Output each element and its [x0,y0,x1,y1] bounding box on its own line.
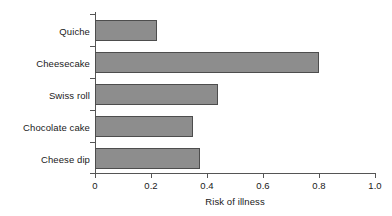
bar-chart-figure: Quiche Cheesecake Swiss roll Chocolate c… [0,0,392,216]
x-axis-tick [375,173,376,178]
y-axis-tick [90,14,95,15]
x-axis-tick-label: 0.2 [144,180,158,191]
bar-row: Cheesecake [0,52,392,74]
x-axis-tick [319,173,320,178]
y-axis-tick [90,46,95,47]
x-axis-tick-label: 0.4 [200,180,214,191]
bar-cheese-dip [95,148,200,169]
bar-quiche [95,20,157,41]
x-axis-tick-label: 0.8 [312,180,326,191]
x-axis-tick-label: 0.6 [256,180,270,191]
bar-row: Swiss roll [0,84,392,106]
bar-category-label: Cheese dip [41,154,90,165]
bar-row: Cheese dip [0,148,392,170]
x-axis-tick-label: 1.0 [368,180,382,191]
bar-swiss-roll [95,84,218,105]
bar-category-label: Quiche [59,26,90,37]
x-axis-tick [207,173,208,178]
y-axis-tick [90,142,95,143]
x-axis-tick [151,173,152,178]
bar-category-label: Cheesecake [36,58,90,69]
bar-cheesecake [95,52,319,73]
x-axis-tick-label: 0 [92,180,97,191]
bar-category-label: Chocolate cake [23,122,90,133]
x-axis-tick [95,173,96,178]
y-axis-tick [90,78,95,79]
bar-row: Chocolate cake [0,116,392,138]
bar-chocolate-cake [95,116,193,137]
x-axis-title: Risk of illness [205,196,265,207]
x-axis-tick [263,173,264,178]
bar-row: Quiche [0,20,392,42]
x-axis-line [95,173,376,174]
bar-category-label: Swiss roll [49,90,90,101]
y-axis-tick [90,110,95,111]
